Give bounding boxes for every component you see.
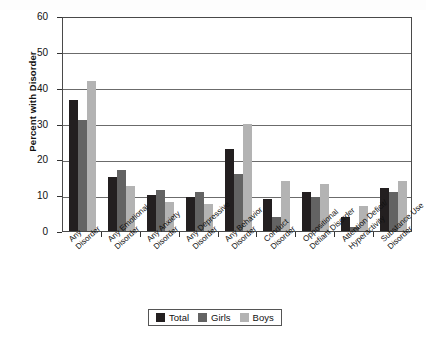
y-tick-label: 20: [0, 155, 48, 165]
y-tick-label: 50: [0, 48, 48, 58]
bar-chart: Percent with Disorder 6050403020100 AnyD…: [0, 0, 426, 345]
legend-label: Total: [169, 313, 189, 323]
y-tick-label: 10: [0, 191, 48, 201]
gridline: [63, 53, 411, 54]
y-tick-label: 30: [0, 120, 48, 130]
legend-item-total: Total: [156, 313, 189, 323]
x-axis-labels: AnyDisorderAny EmotionalDisorderAny Anxi…: [0, 232, 426, 302]
legend-swatch-total: [156, 313, 165, 322]
legend-label: Girls: [211, 313, 231, 323]
legend-item-boys: Boys: [240, 313, 274, 323]
legend-label: Boys: [253, 313, 274, 323]
bar-girls-0: [78, 120, 87, 231]
chart-legend: TotalGirlsBoys: [148, 309, 282, 326]
bar-total-0: [69, 100, 78, 231]
legend-swatch-boys: [240, 313, 249, 322]
legend-swatch-girls: [198, 313, 207, 322]
plot-area: [62, 17, 412, 232]
gridline: [63, 89, 411, 90]
bar-total-1: [108, 177, 117, 231]
gridline: [63, 161, 411, 162]
bar-total-3: [186, 197, 195, 231]
y-tick-label: 60: [0, 12, 48, 22]
bar-boys-0: [87, 81, 96, 232]
scan-noise: [0, 0, 426, 10]
legend-item-girls: Girls: [198, 313, 231, 323]
y-tick-label: 40: [0, 84, 48, 94]
gridline: [63, 125, 411, 126]
bar-total-6: [302, 192, 311, 231]
